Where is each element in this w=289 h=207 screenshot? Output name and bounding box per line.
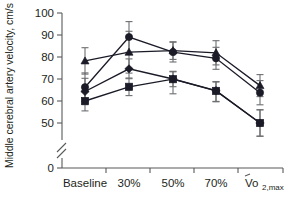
x-category-label-50: 50% [161, 177, 184, 189]
y-tick-label-70: 70 [41, 73, 54, 85]
y-tick-label-60: 60 [41, 95, 54, 107]
x-category-label-30: 30% [117, 177, 140, 189]
y-tick-label-80: 80 [41, 51, 54, 63]
x-category-label-vo2max: Vo 2,max [245, 174, 284, 192]
y-tick-label-90: 90 [41, 29, 54, 41]
vdot-icon [245, 174, 250, 176]
y-tick-label-50: 50 [41, 117, 54, 129]
x-category-label-vo2max-main: Vo [245, 177, 258, 189]
error-bars-diamond-series [82, 59, 264, 136]
y-tick-label-100: 100 [35, 7, 54, 19]
x-category-label-vo2max-sub: 2,max [262, 183, 284, 192]
x-category-label-baseline: Baseline [63, 177, 107, 189]
y-tick-label-0: 0 [48, 162, 54, 174]
y-axis-label: Middle cerebral artery velocity, cm/s [4, 3, 15, 168]
chart-figure: Middle cerebral artery velocity, cm/s 10… [0, 0, 289, 207]
middle-cerebral-artery-velocity-line-chart: Middle cerebral artery velocity, cm/s 10… [0, 0, 289, 207]
x-category-label-70: 70% [204, 177, 227, 189]
